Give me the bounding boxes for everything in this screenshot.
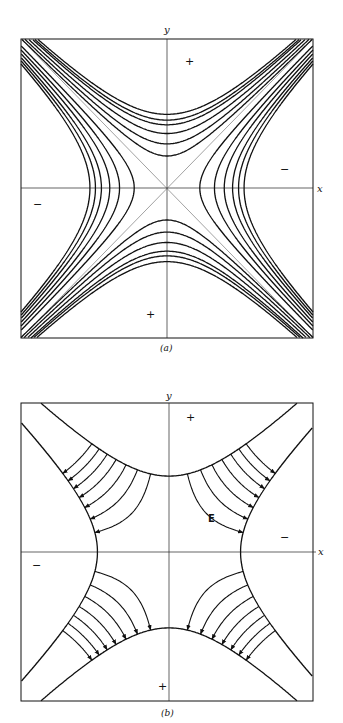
field-line <box>95 571 151 630</box>
field-line <box>95 474 151 533</box>
field-line <box>212 596 253 639</box>
panel-a-x-label: x <box>317 183 323 194</box>
field-line <box>222 460 259 498</box>
field-line <box>63 631 92 661</box>
panel-b-sign-bottom: + <box>158 680 167 693</box>
field-line <box>63 444 92 474</box>
field-line <box>222 607 259 645</box>
panel-a-sign-top: + <box>185 55 194 68</box>
panel-a: y x + + − − (a) <box>21 24 323 353</box>
field-line <box>201 470 248 519</box>
field-line <box>246 444 275 474</box>
field-line <box>246 631 275 661</box>
field-line <box>90 585 137 634</box>
field-line <box>85 596 126 639</box>
field-line <box>187 474 243 533</box>
panel-b-field-label: E <box>208 513 215 524</box>
field-line <box>187 571 243 630</box>
panel-a-y-label: y <box>163 24 170 35</box>
panel-b-y-label: y <box>165 390 172 401</box>
field-line <box>212 465 253 508</box>
field-line <box>201 585 248 634</box>
panel-a-sign-left: − <box>33 198 42 211</box>
panel-b-sign-right: − <box>280 531 289 544</box>
field-line <box>90 470 137 519</box>
panel-a-caption: (a) <box>160 343 173 353</box>
panel-b: y x + + − − E (b) <box>21 390 324 718</box>
field-line <box>79 460 116 498</box>
field-line <box>85 465 126 508</box>
panel-b-sign-top: + <box>186 411 195 424</box>
panel-b-caption: (b) <box>161 708 174 718</box>
panel-b-sign-left: − <box>32 559 41 572</box>
field-line <box>79 607 116 645</box>
panel-a-sign-bottom: + <box>146 308 155 321</box>
figure-canvas: y x + + − − (a) y x + + − − E (b) <box>0 0 343 723</box>
panel-a-sign-right: − <box>280 163 289 176</box>
panel-b-x-label: x <box>318 546 324 557</box>
